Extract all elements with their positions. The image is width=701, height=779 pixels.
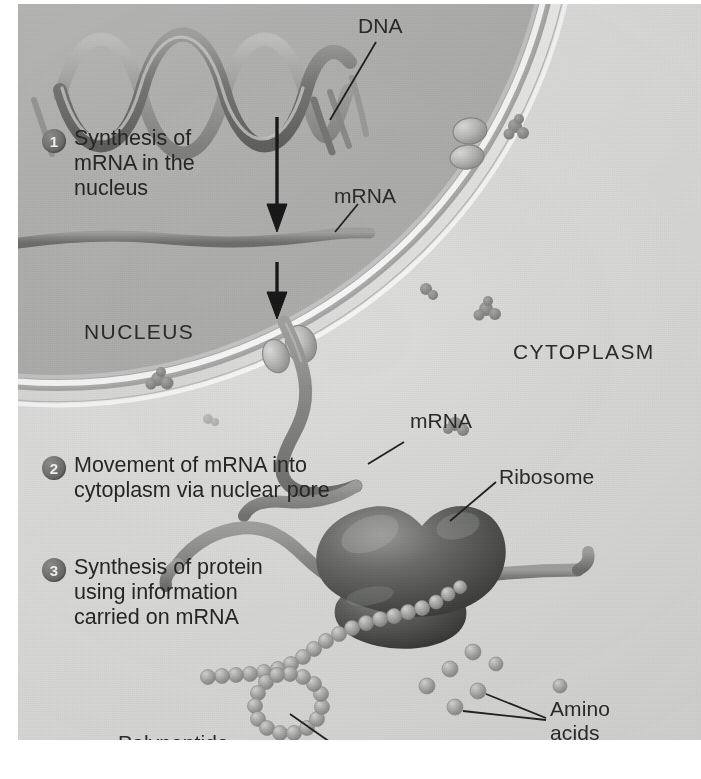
callout-amino-acids: Amino acids — [550, 697, 610, 740]
step-2-text: Movement of mRNA into cytoplasm via nucl… — [74, 453, 352, 503]
step-2-badge: 2 — [42, 456, 66, 480]
step-1: 1 Synthesis of mRNA in the nucleus — [42, 126, 252, 201]
step-1-text: Synthesis of mRNA in the nucleus — [74, 126, 252, 201]
step-3: 3 Synthesis of protein using information… — [42, 555, 272, 630]
step-3-badge: 3 — [42, 558, 66, 582]
step-1-badge: 1 — [42, 129, 66, 153]
callout-ribosome: Ribosome — [499, 465, 594, 489]
region-label-cytoplasm: CYTOPLASM — [513, 340, 655, 364]
step-3-text: Synthesis of protein using information c… — [74, 555, 272, 630]
callout-polypeptide: Polypeptide — [118, 731, 229, 740]
step-2: 2 Movement of mRNA into cytoplasm via nu… — [42, 453, 352, 503]
callout-dna: DNA — [358, 14, 403, 38]
protein-synthesis-figure: DNA mRNA NUCLEUS CYTOPLASM mRNA Ribosome… — [0, 0, 701, 779]
callout-mrna-nuclear: mRNA — [334, 184, 396, 208]
region-label-nucleus: NUCLEUS — [84, 320, 194, 344]
illustration-plate: DNA mRNA NUCLEUS CYTOPLASM mRNA Ribosome… — [18, 4, 701, 740]
callout-mrna-cytoplasm: mRNA — [410, 409, 472, 433]
